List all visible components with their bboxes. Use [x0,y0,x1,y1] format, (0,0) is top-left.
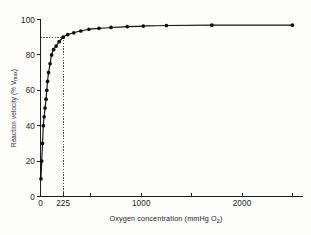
data-point [52,48,56,52]
data-point [61,35,65,39]
data-point [48,62,52,66]
data-point [57,40,61,44]
data-point [44,97,48,101]
x-axis-tick-label: 225 [56,199,70,208]
data-point [42,115,46,119]
data-point [47,71,51,75]
figure-container: 020406080100 022510002000 Oxygen concent… [0,0,311,235]
data-point [41,124,45,128]
x-axis-tick-label: 1000 [132,199,151,208]
data-point [291,23,295,27]
y-axis-tick-label: 20 [26,157,36,166]
data-point [66,33,70,37]
data-point [109,26,113,30]
data-point [72,31,76,35]
y-axis-title: Reaction velocity (% Vmax) [10,69,18,147]
y-axis-tick-label: 0 [30,193,35,202]
data-point [43,106,47,110]
axes [41,20,303,197]
data-point [87,27,91,31]
y-axis-tick-label: 60 [26,86,36,95]
x-axis-title: Oxygen concentration (mmHg O2) [110,214,223,224]
data-point [54,44,58,48]
data-point [125,25,129,29]
data-point [79,29,83,33]
data-point [46,80,50,84]
data-point [97,27,101,31]
saturation-curve-line [41,25,292,179]
saturation-curve-chart: 020406080100 022510002000 Oxygen concent… [0,0,311,235]
data-point [45,88,49,92]
y-axis-tick-label: 80 [26,51,36,60]
data-point [41,142,45,146]
data-point [210,23,214,27]
y-axis-tick-labels: 020406080100 [21,16,35,202]
data-point [50,53,54,57]
y-axis-tick-label: 100 [21,16,35,25]
x-axis-tick-label: 0 [38,199,43,208]
data-points [39,23,294,180]
data-point [165,24,169,28]
x-axis-tick-label: 2000 [233,199,252,208]
y-axis-tick-label: 40 [26,122,36,131]
data-point [141,24,145,28]
x-axis-tick-labels: 022510002000 [38,199,252,208]
data-point [40,159,44,163]
data-point [39,177,43,181]
